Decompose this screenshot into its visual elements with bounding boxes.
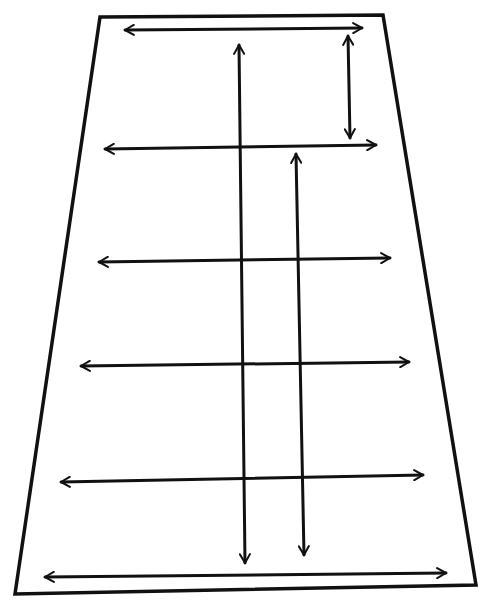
vertical-arrows (239, 36, 350, 563)
horizontal-double-arrow-icon-1 (125, 28, 362, 30)
vertical-double-arrow-icon-2 (239, 45, 245, 563)
diagram-canvas (0, 0, 494, 608)
horizontal-double-arrow-icon-3 (99, 258, 390, 262)
vertical-double-arrow-icon-3 (296, 154, 304, 555)
horizontal-double-arrow-icon-4 (81, 362, 409, 366)
trapezoid-diagram (0, 0, 494, 608)
vertical-double-arrow-icon-1 (348, 36, 350, 138)
horizontal-double-arrow-icon-6 (45, 573, 446, 577)
horizontal-double-arrow-icon-5 (61, 475, 423, 482)
